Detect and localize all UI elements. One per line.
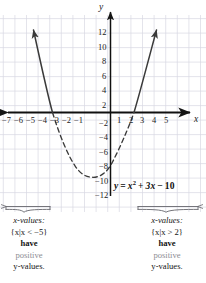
y-tick-2: 2 — [102, 101, 106, 110]
y-tick-4: 4 — [102, 86, 106, 95]
equation-plus: + — [138, 181, 144, 191]
figure-root: −7 −6 −5 −4 −3 −2 −1 1 2 3 4 5 12 10 8 6… — [0, 0, 206, 283]
right-interval-callout: x-values: {x|x > 2} have positive y-valu… — [137, 215, 197, 273]
equation-label: y=x2+3x−10 — [114, 180, 175, 192]
x-tick-neg1: −1 — [74, 116, 83, 125]
right-callout-line4: positive — [137, 250, 197, 262]
equation-linear-term: 3x — [146, 181, 156, 191]
x-axis-label: x — [194, 115, 198, 125]
left-callout-line2: {x|x < −5} — [0, 227, 58, 239]
y-tick-8: 8 — [102, 57, 106, 66]
equation-minus: − — [157, 181, 163, 191]
left-callout-line5: y-values. — [0, 261, 58, 273]
y-tick-neg12: −12 — [95, 191, 108, 200]
right-callout-line1: x-values: — [137, 215, 197, 227]
y-tick-neg8: −8 — [99, 162, 108, 171]
y-tick-neg10: −10 — [95, 177, 108, 186]
y-tick-10: 10 — [98, 43, 107, 52]
equation-exponent: 2 — [133, 179, 136, 186]
y-tick-neg6: −6 — [99, 148, 108, 157]
y-tick-12: 12 — [98, 28, 107, 37]
equation-constant: 10 — [165, 181, 175, 191]
x-tick-neg7: −7 — [2, 116, 11, 125]
x-tick-3: 3 — [140, 116, 144, 125]
y-axis-label: y — [99, 3, 103, 13]
x-tick-neg6: −6 — [14, 116, 23, 125]
x-tick-2: 2 — [129, 116, 133, 125]
right-callout-line3: have — [137, 238, 197, 250]
left-callout-line4: positive — [0, 250, 58, 262]
right-callout-line2: {x|x > 2} — [137, 227, 197, 239]
equation-equals: = — [120, 181, 126, 191]
left-callout-line1: x-values: — [0, 215, 58, 227]
y-tick-neg4: −4 — [99, 133, 108, 142]
y-tick-neg2: −2 — [99, 119, 108, 128]
x-tick-neg3: −3 — [50, 116, 59, 125]
x-tick-5: 5 — [164, 116, 168, 125]
left-interval-callout: x-values: {x|x < −5} have positive y-val… — [0, 215, 58, 273]
curve-right-positive — [134, 30, 157, 113]
x-tick-neg5: −5 — [26, 116, 35, 125]
right-callout-line5: y-values. — [137, 261, 197, 273]
left-callout-line3: have — [0, 238, 58, 250]
x-tick-4: 4 — [152, 116, 156, 125]
equation-lhs: y — [114, 181, 118, 191]
y-tick-6: 6 — [102, 72, 106, 81]
x-tick-neg2: −2 — [62, 116, 71, 125]
x-tick-neg4: −4 — [38, 116, 47, 125]
x-tick-1: 1 — [117, 116, 121, 125]
